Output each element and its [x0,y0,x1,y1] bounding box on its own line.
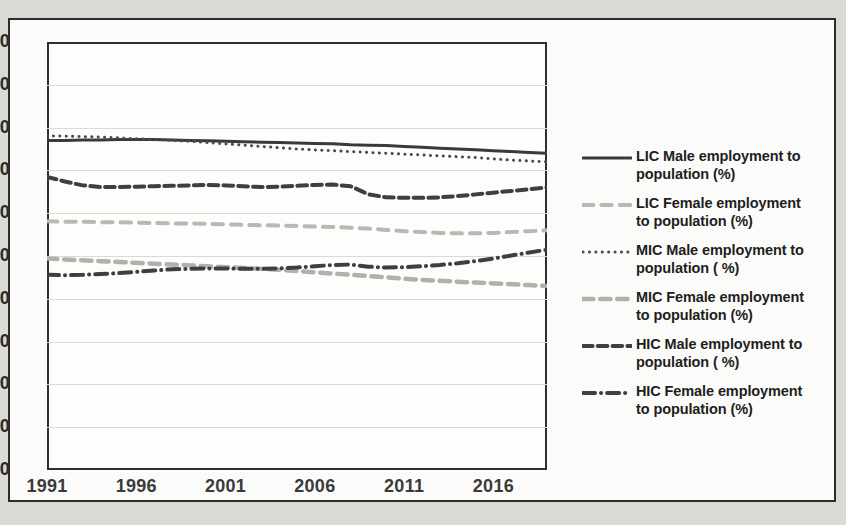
legend-item-label: MIC Female employmentto population (%) [636,289,804,324]
x-axis-tick-label: 1996 [116,476,157,497]
legend-label-line-2: to population (%) [636,401,802,419]
x-axis-tick-label: 2011 [384,476,424,497]
y-axis-tick-label: 50 [0,245,10,266]
series-line-5 [47,177,547,198]
x-axis-tick-label: 2001 [205,476,246,497]
legend-item[interactable]: LIC Female employmentto population (%) [582,195,830,230]
legend-label-line-1: MIC Female employment [636,289,804,307]
y-axis: 0102030405060708090100 [0,42,10,470]
legend-item[interactable]: MIC Male employment topopulation ( %) [582,242,830,277]
legend-label-line-2: to population (%) [636,213,801,231]
x-axis-tick-label: 1991 [26,476,67,497]
legend-line-swatch-icon [582,242,632,262]
y-axis-tick-label: 0 [0,459,10,480]
legend-label-line-1: HIC Female employment [636,383,802,401]
y-axis-tick-label: 90 [0,74,10,95]
series-line-1 [47,140,547,154]
legend-label-line-2: population ( %) [636,354,802,372]
legend-label-line-1: MIC Male employment to [636,242,804,260]
x-axis-tick-label: 2006 [294,476,335,497]
y-axis-tick-label: 10 [0,416,10,437]
legend-line-swatch-icon [582,383,632,403]
y-axis-tick-label: 100 [0,31,10,52]
legend-item[interactable]: LIC Male employment topopulation (%) [582,148,830,183]
legend-item[interactable]: MIC Female employmentto population (%) [582,289,830,324]
legend-line-swatch-icon [582,148,632,168]
y-axis-tick-label: 60 [0,202,10,223]
legend-item-label: LIC Female employmentto population (%) [636,195,801,230]
legend-item[interactable]: HIC Male employment topopulation ( %) [582,336,830,371]
series-layer [47,42,547,470]
legend-item-label: LIC Male employment topopulation (%) [636,148,801,183]
legend-label-line-1: HIC Male employment to [636,336,802,354]
legend-label-line-2: to population (%) [636,307,804,325]
y-axis-tick-label: 40 [0,288,10,309]
y-axis-tick-label: 70 [0,159,10,180]
chart-plot-area [47,42,547,470]
legend-label-line-1: LIC Male employment to [636,148,801,166]
legend-label-line-1: LIC Female employment [636,195,801,213]
legend-item-label: HIC Female employmentto population (%) [636,383,802,418]
legend-line-swatch-icon [582,336,632,356]
chart-legend: LIC Male employment topopulation (%)LIC … [582,148,830,430]
legend-line-swatch-icon [582,195,632,215]
x-axis: 199119962001200620112016 [47,476,567,506]
y-axis-tick-label: 80 [0,117,10,138]
page-sheet: 0102030405060708090100 19911996200120062… [8,18,836,502]
y-axis-tick-label: 20 [0,373,10,394]
x-axis-tick-label: 2016 [473,476,514,497]
legend-label-line-2: population (%) [636,166,801,184]
y-axis-tick-label: 30 [0,331,10,352]
legend-label-line-2: population ( %) [636,260,804,278]
legend-item-label: HIC Male employment topopulation ( %) [636,336,802,371]
series-line-2 [47,221,547,233]
scanned-page: 0102030405060708090100 19911996200120062… [0,0,846,525]
legend-item-label: MIC Male employment topopulation ( %) [636,242,804,277]
legend-item[interactable]: HIC Female employmentto population (%) [582,383,830,418]
legend-line-swatch-icon [582,289,632,309]
